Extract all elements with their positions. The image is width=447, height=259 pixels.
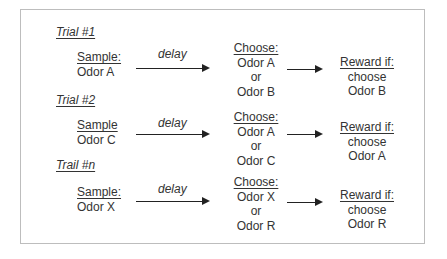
choose-or: or (228, 139, 284, 154)
trial-2-reward: Reward if: choose Odor A (336, 120, 398, 164)
reward-heading: Reward if: (336, 55, 398, 70)
sample-odor: Odor C (77, 133, 118, 148)
trial-1-reward-arrow-icon (287, 69, 321, 70)
sample-heading: Sample: (77, 185, 121, 200)
choose-option-2: Odor B (228, 85, 284, 100)
choose-option-2: Odor R (228, 219, 284, 234)
reward-line-1: choose (336, 70, 398, 85)
trial-2-delay-label: delay (158, 116, 187, 130)
trial-1-label: Trial #1 (56, 25, 95, 39)
trial-2-sample: Sample Odor C (77, 118, 118, 147)
sample-odor: Odor A (77, 65, 121, 80)
choose-option-1: Odor A (228, 125, 284, 140)
trial-n-choose: Choose: Odor X or Odor R (228, 175, 284, 233)
reward-heading: Reward if: (336, 188, 398, 203)
reward-line-2: Odor R (336, 217, 398, 232)
trial-n-reward-arrow-icon (287, 202, 321, 203)
trial-n-reward: Reward if: choose Odor R (336, 188, 398, 232)
trial-2-delay-arrow-icon (136, 134, 208, 135)
choose-option-2: Odor C (228, 154, 284, 169)
choose-or: or (228, 70, 284, 85)
reward-line-1: choose (336, 135, 398, 150)
trial-2-label: Trial #2 (56, 93, 95, 107)
choose-option-1: Odor X (228, 190, 284, 205)
trial-1-reward: Reward if: choose Odor B (336, 55, 398, 99)
trial-1-delay-label: delay (158, 47, 187, 61)
trial-2-reward-arrow-icon (287, 134, 321, 135)
trial-1-delay-arrow-icon (136, 68, 208, 69)
choose-heading: Choose: (228, 110, 284, 125)
trial-n-sample: Sample: Odor X (77, 185, 121, 214)
reward-line-2: Odor A (336, 149, 398, 164)
trial-n-delay-arrow-icon (136, 201, 208, 202)
reward-line-2: Odor B (336, 84, 398, 99)
reward-line-1: choose (336, 203, 398, 218)
choose-heading: Choose: (228, 41, 284, 56)
trial-1-choose: Choose: Odor A or Odor B (228, 41, 284, 99)
choose-or: or (228, 204, 284, 219)
trial-n-delay-label: delay (158, 182, 187, 196)
sample-heading: Sample (77, 118, 118, 133)
reward-heading: Reward if: (336, 120, 398, 135)
choose-heading: Choose: (228, 175, 284, 190)
sample-heading: Sample: (77, 50, 121, 65)
trial-n-label: Trail #n (56, 158, 95, 172)
sample-odor: Odor X (77, 200, 121, 215)
trial-1-sample: Sample: Odor A (77, 50, 121, 79)
choose-option-1: Odor A (228, 56, 284, 71)
trial-2-choose: Choose: Odor A or Odor C (228, 110, 284, 168)
